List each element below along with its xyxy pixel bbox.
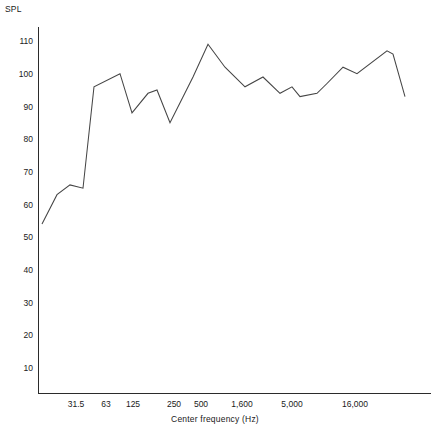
plot-area bbox=[0, 0, 431, 438]
spl-response-line bbox=[42, 44, 405, 224]
chart-container: SPL 110 100 90 80 70 60 50 40 30 20 10 3… bbox=[0, 0, 431, 438]
axis-frame bbox=[39, 27, 431, 394]
